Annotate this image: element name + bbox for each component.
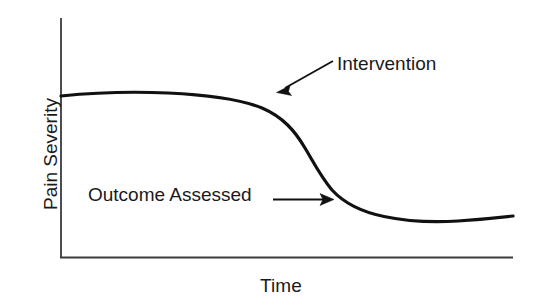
line-chart-graphic (0, 0, 550, 308)
annotation-label-intervention: Intervention (337, 53, 436, 75)
intervention-arrow-shaft (285, 61, 333, 88)
intervention-arrow-head (277, 86, 292, 96)
annotation-label-outcome-assessed: Outcome Assessed (88, 184, 252, 206)
y-axis-label: Pain Severity (40, 98, 62, 210)
x-axis-label: Time (260, 275, 302, 297)
figure-canvas: Pain Severity Time Intervention Outcome … (0, 0, 550, 308)
